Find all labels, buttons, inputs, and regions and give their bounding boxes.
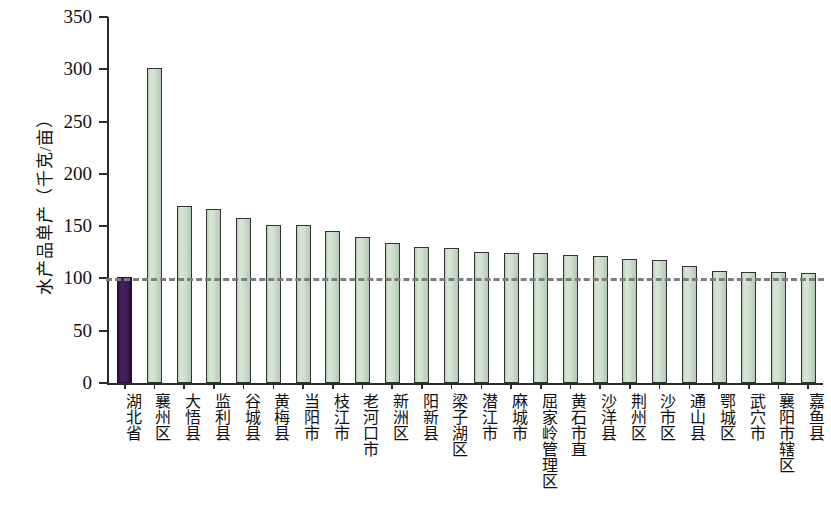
x-axis-label-text: 襄阳市辖区 — [764, 393, 794, 473]
x-axis-label: 沙洋县 — [585, 393, 615, 441]
y-tick-label: 300 — [64, 58, 93, 80]
bar — [593, 256, 608, 383]
x-axis-label: 通山县 — [674, 393, 704, 441]
x-tick-mark — [391, 383, 393, 389]
x-axis-label-text: 通山县 — [674, 393, 704, 441]
x-axis-label-text: 潜江市 — [467, 393, 497, 441]
bar — [296, 225, 311, 383]
bar-slot — [734, 17, 764, 383]
x-axis-label-text: 老河口市 — [348, 393, 378, 457]
x-axis-label-text: 黄梅县 — [259, 393, 289, 441]
y-axis-title: 水产品单产（千克/亩） — [31, 63, 56, 343]
plot-area: 350300250200150100500 — [110, 17, 823, 383]
bar — [622, 259, 637, 383]
x-axis-label-text: 襄州区 — [140, 393, 170, 441]
y-tick-mark — [99, 173, 108, 175]
bar — [563, 255, 578, 383]
bar-slot — [110, 17, 140, 383]
y-tick-label: 0 — [83, 372, 93, 394]
bar-slot — [764, 17, 794, 383]
x-axis-label-text: 当阳市 — [288, 393, 318, 441]
x-axis-label: 屈家岭管理区 — [526, 393, 556, 489]
bar — [177, 206, 192, 383]
x-axis-label: 黄石市直 — [556, 393, 586, 457]
x-tick-mark — [689, 383, 691, 389]
bar — [444, 248, 459, 383]
bar-slot — [348, 17, 378, 383]
x-tick-mark — [629, 383, 631, 389]
x-axis-label-text: 梁子湖区 — [437, 393, 467, 457]
x-tick-mark — [421, 383, 423, 389]
y-tick-label: 50 — [73, 320, 92, 342]
y-tick-label: 250 — [64, 111, 93, 133]
bar — [206, 209, 221, 383]
bar-slot — [793, 17, 823, 383]
bar-slot — [615, 17, 645, 383]
bar-slot — [645, 17, 675, 383]
x-axis-label: 荆州区 — [615, 393, 645, 441]
x-tick-mark — [778, 383, 780, 389]
bar-highlight — [117, 277, 132, 383]
x-tick-mark — [213, 383, 215, 389]
x-tick-mark — [510, 383, 512, 389]
bar — [266, 225, 281, 383]
bar — [801, 273, 816, 383]
x-axis-label: 武穴市 — [734, 393, 764, 441]
bar-slot — [556, 17, 586, 383]
bar — [771, 272, 786, 383]
x-tick-mark — [540, 383, 542, 389]
x-axis-label-text: 黄石市直 — [556, 393, 586, 457]
bar-slot — [467, 17, 497, 383]
x-axis-label-text: 沙洋县 — [585, 393, 615, 441]
bar-slot — [169, 17, 199, 383]
y-tick-label: 100 — [64, 267, 93, 289]
x-axis-label-text: 枝江市 — [318, 393, 348, 441]
y-tick-mark — [99, 330, 108, 332]
y-tick-label: 200 — [64, 163, 93, 185]
bar — [504, 253, 519, 383]
x-axis-label-text: 屈家岭管理区 — [526, 393, 556, 489]
x-axis-label: 监利县 — [199, 393, 229, 441]
x-tick-mark — [718, 383, 720, 389]
x-tick-mark — [273, 383, 275, 389]
x-tick-mark — [183, 383, 185, 389]
x-tick-mark — [807, 383, 809, 389]
x-axis-label: 黄梅县 — [259, 393, 289, 441]
x-axis-label-text: 嘉鱼县 — [793, 393, 823, 441]
bar-slot — [229, 17, 259, 383]
x-axis-label: 湖北省 — [110, 393, 140, 441]
x-axis-label-text: 鄂城区 — [704, 393, 734, 441]
x-axis-label-text: 阳新县 — [407, 393, 437, 441]
x-tick-mark — [451, 383, 453, 389]
bar-slot — [704, 17, 734, 383]
y-tick-mark — [99, 225, 108, 227]
x-axis-label: 鄂城区 — [704, 393, 734, 441]
x-tick-mark — [302, 383, 304, 389]
x-axis-label: 沙市区 — [645, 393, 675, 441]
x-axis-label: 阳新县 — [407, 393, 437, 441]
x-axis-label: 潜江市 — [467, 393, 497, 441]
x-tick-mark — [748, 383, 750, 389]
y-tick-mark — [99, 68, 108, 70]
bar-slot — [288, 17, 318, 383]
x-axis-label: 新洲区 — [377, 393, 407, 441]
x-axis-label: 枝江市 — [318, 393, 348, 441]
x-axis-label-text: 沙市区 — [645, 393, 675, 441]
x-tick-mark — [124, 383, 126, 389]
bar-slot — [496, 17, 526, 383]
bar-slot — [199, 17, 229, 383]
x-axis-label-text: 湖北省 — [110, 393, 140, 441]
bar — [533, 253, 548, 383]
x-axis-labels: 湖北省襄州区大悟县监利县谷城县黄梅县当阳市枝江市老河口市新洲区阳新县梁子湖区潜江… — [110, 393, 823, 528]
fishery-yield-bar-chart: 水产品单产（千克/亩） 350300250200150100500 湖北省襄州区… — [0, 0, 831, 528]
x-axis-label: 襄州区 — [140, 393, 170, 441]
x-tick-mark — [154, 383, 156, 389]
x-axis-label: 梁子湖区 — [437, 393, 467, 457]
x-tick-mark — [570, 383, 572, 389]
x-axis-label-text: 新洲区 — [377, 393, 407, 441]
bar-slot — [318, 17, 348, 383]
x-axis-label-text: 监利县 — [199, 393, 229, 441]
x-axis-label-text: 武穴市 — [734, 393, 764, 441]
bar — [325, 231, 340, 383]
x-axis-label-text: 大悟县 — [169, 393, 199, 441]
